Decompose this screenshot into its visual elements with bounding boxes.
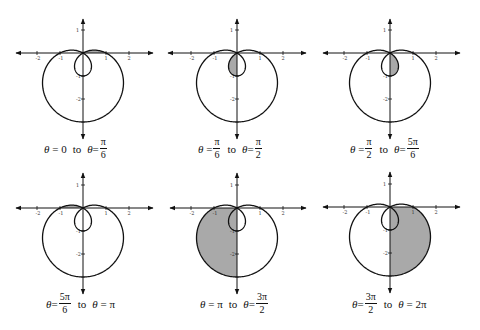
- caption-panel-2: θ =π6 to θ=π2: [198, 137, 263, 160]
- fraction: 5π6: [407, 137, 419, 160]
- x-tick-label: -1: [366, 55, 371, 61]
- fraction: π6: [100, 137, 107, 160]
- caption-left: θ = 0: [44, 143, 67, 155]
- y-tick-label: -2: [230, 96, 235, 102]
- caption-to: to: [379, 143, 388, 155]
- caption-left: θ=5π6: [46, 292, 72, 315]
- polar-panel-4: -2-1121-1-2: [16, 173, 153, 294]
- limacon-figure: -2-1121-1-2-2-1121-1-2-2-1121-1-2-2-1121…: [0, 0, 480, 330]
- caption-panel-6: θ=3π2 to θ = 2π: [352, 292, 426, 315]
- polar-panel-6: -2-1121-1-2: [323, 172, 460, 293]
- caption-right: θ=π6: [87, 137, 108, 160]
- x-tick-label: -2: [343, 55, 348, 61]
- polar-panel-2: -2-1121-1-2: [168, 19, 306, 139]
- y-tick-label: 1: [383, 27, 386, 33]
- caption-panel-1: θ = 0 to θ=π6: [44, 137, 108, 160]
- caption-to: to: [73, 143, 82, 155]
- y-tick-label: -2: [76, 96, 81, 102]
- caption-to: to: [227, 143, 236, 155]
- x-tick-label: 2: [282, 210, 285, 216]
- x-tick-label: -1: [213, 210, 218, 216]
- caption-panel-4: θ=5π6 to θ = π: [46, 292, 115, 315]
- polar-panel-5: -2-1121-1-2: [170, 173, 306, 294]
- x-tick-label: 2: [435, 55, 438, 61]
- x-tick-label: 2: [282, 55, 285, 61]
- caption-panel-5: θ = π to θ=3π2: [200, 292, 269, 315]
- y-tick-label: -2: [76, 251, 81, 257]
- y-tick-label: 1: [383, 181, 386, 187]
- x-tick-label: 1: [259, 55, 262, 61]
- fraction: 3π2: [256, 292, 268, 315]
- x-tick-label: 2: [435, 209, 438, 215]
- x-tick-label: -1: [59, 210, 64, 216]
- caption-panel-3: θ =π2 to θ=5π6: [350, 137, 420, 160]
- y-tick-label: 1: [76, 27, 79, 33]
- fraction: 5π6: [59, 292, 71, 315]
- caption-right: θ=π2: [242, 137, 263, 160]
- x-tick-label: 1: [105, 210, 108, 216]
- x-tick-label: -2: [190, 55, 195, 61]
- caption-right: θ=5π6: [394, 137, 420, 160]
- x-tick-label: -1: [366, 209, 371, 215]
- y-tick-label: 1: [76, 182, 79, 188]
- fraction: π6: [213, 137, 220, 160]
- polar-panel-1: -2-1121-1-2: [16, 19, 153, 139]
- polar-panel-3: -2-1121-1-2: [323, 19, 460, 139]
- x-tick-label: -2: [36, 55, 41, 61]
- caption-left: θ=3π2: [352, 292, 378, 315]
- caption-to: to: [384, 298, 393, 310]
- x-tick-label: -1: [213, 55, 218, 61]
- x-tick-label: 1: [412, 209, 415, 215]
- caption-right: θ = π: [92, 298, 115, 310]
- x-tick-label: -2: [36, 210, 41, 216]
- x-tick-label: 1: [412, 55, 415, 61]
- x-tick-label: 2: [128, 55, 131, 61]
- x-tick-label: 2: [128, 210, 131, 216]
- x-tick-label: 1: [105, 55, 108, 61]
- caption-left: θ =π2: [350, 137, 373, 160]
- y-tick-label: -2: [230, 251, 235, 257]
- y-tick-label: -2: [383, 250, 388, 256]
- fraction: π2: [255, 137, 262, 160]
- caption-left: θ = π: [200, 298, 223, 310]
- caption-left: θ =π6: [198, 137, 221, 160]
- x-tick-label: -1: [59, 55, 64, 61]
- fraction: π2: [365, 137, 372, 160]
- x-tick-label: -2: [190, 210, 195, 216]
- caption-right: θ = 2π: [398, 298, 426, 310]
- caption-right: θ=3π2: [243, 292, 269, 315]
- y-tick-label: -2: [383, 96, 388, 102]
- y-tick-label: 1: [230, 27, 233, 33]
- x-tick-label: -2: [343, 209, 348, 215]
- caption-to: to: [78, 298, 87, 310]
- x-tick-label: 1: [259, 210, 262, 216]
- caption-to: to: [229, 298, 238, 310]
- fraction: 3π2: [365, 292, 377, 315]
- y-tick-label: 1: [230, 182, 233, 188]
